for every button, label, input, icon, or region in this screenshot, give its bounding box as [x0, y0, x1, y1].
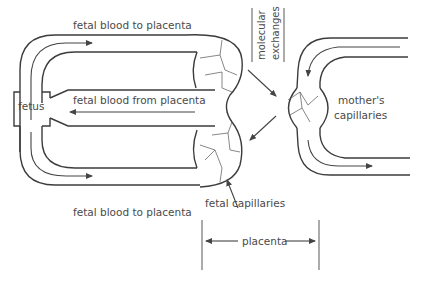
- label-top-flow: fetal blood to placenta: [73, 19, 192, 31]
- placenta-diagram: fetal blood to placenta fetal blood from…: [0, 0, 424, 283]
- fetal-capillary-cluster: [185, 35, 242, 187]
- fetal-flow-arrows: [31, 43, 195, 176]
- label-exchange-2: exchanges: [270, 6, 281, 60]
- label-exchange-1: molecular: [256, 9, 267, 60]
- label-placenta: placenta: [242, 235, 287, 247]
- maternal-vessels: [288, 38, 410, 175]
- label-fetal-capillaries: fetal capillaries: [205, 197, 285, 209]
- label-bottom-flow: fetal blood to placenta: [73, 206, 192, 218]
- label-middle-flow: fetal blood from placenta: [73, 94, 206, 106]
- label-mother-capillaries: capillaries: [334, 109, 387, 121]
- label-mother: mother's: [338, 94, 385, 106]
- label-fetus: fetus: [18, 100, 44, 112]
